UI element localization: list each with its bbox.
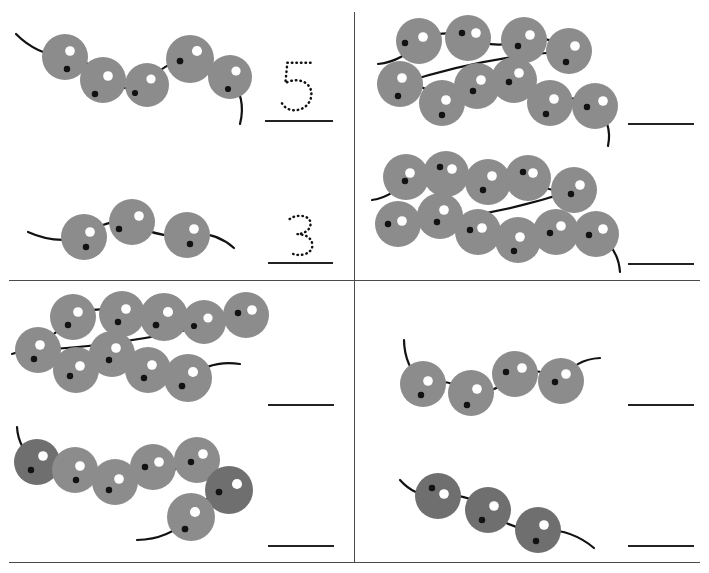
bead xyxy=(515,507,561,553)
bead xyxy=(400,361,446,407)
bead xyxy=(492,351,538,397)
caterpillar-problem-8 xyxy=(398,468,608,563)
bead xyxy=(465,487,511,533)
answer-line-problem-8[interactable] xyxy=(628,545,694,547)
quadrant-bottom-right xyxy=(0,0,709,573)
answer-line-problem-7[interactable] xyxy=(628,404,694,406)
bead xyxy=(538,358,584,404)
caterpillar-problem-7 xyxy=(388,336,618,426)
worksheet-page xyxy=(0,0,709,573)
dotted-numeral-five xyxy=(274,58,320,116)
bead xyxy=(415,473,461,519)
dotted-numeral-three xyxy=(284,212,318,260)
bead xyxy=(448,370,494,416)
